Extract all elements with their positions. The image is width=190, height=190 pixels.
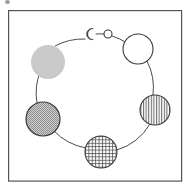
node-large-open[interactable] bbox=[123, 34, 153, 64]
node-crescent-shape[interactable] bbox=[87, 28, 94, 39]
edge-large-to-vertical bbox=[147, 61, 153, 95]
node-crescent[interactable] bbox=[87, 28, 94, 39]
node-tiny-open[interactable] bbox=[104, 30, 112, 38]
edge-vertical-to-grid bbox=[117, 124, 150, 150]
edge-grid-to-checker bbox=[54, 131, 86, 148]
cycle-diagram-svg bbox=[0, 0, 190, 190]
node-grid-hatch[interactable] bbox=[85, 136, 117, 168]
node-solid-gray[interactable] bbox=[31, 45, 65, 79]
figure-root bbox=[0, 0, 190, 190]
node-tiny-open-shape[interactable] bbox=[104, 30, 112, 38]
edge-gray-to-crescent bbox=[55, 39, 85, 46]
node-solid-gray-shape[interactable] bbox=[31, 45, 65, 79]
node-large-open-shape[interactable] bbox=[123, 34, 153, 64]
node-fine-checker[interactable] bbox=[26, 102, 60, 136]
node-vertical-hatch[interactable] bbox=[140, 95, 170, 125]
